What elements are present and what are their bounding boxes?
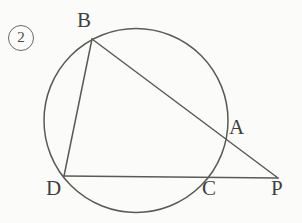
point-label-b: B <box>77 10 91 31</box>
geometry-figure: 2 B A D C P <box>0 0 302 223</box>
point-label-a: A <box>229 117 244 138</box>
item-number-badge: 2 <box>8 25 34 51</box>
segment-bd <box>64 39 92 176</box>
segment-dp <box>64 176 278 178</box>
point-label-p: P <box>271 178 283 199</box>
point-label-d: D <box>46 178 61 199</box>
segment-bp <box>92 39 278 178</box>
point-label-c: C <box>202 178 216 199</box>
